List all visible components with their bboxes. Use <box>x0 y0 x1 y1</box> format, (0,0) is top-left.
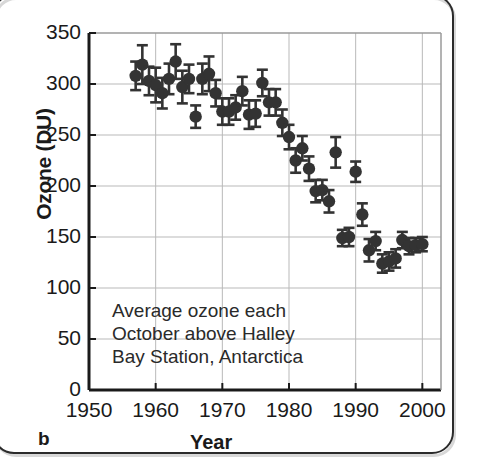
data-point-marker <box>343 231 355 243</box>
data-points-group <box>129 44 428 272</box>
annotation-line: October above Halley <box>112 322 303 345</box>
data-point-marker <box>349 166 361 178</box>
data-point-marker <box>203 68 215 80</box>
y-axis-title: Ozone (DU) <box>32 84 56 244</box>
chart-annotation: Average ozone eachOctober above HalleyBa… <box>112 299 303 369</box>
data-point-marker <box>303 162 315 174</box>
data-point <box>189 105 201 127</box>
data-point <box>256 70 268 97</box>
data-point-marker <box>323 195 335 207</box>
data-point <box>269 89 281 116</box>
data-point-marker <box>356 208 368 220</box>
data-point <box>329 137 341 168</box>
x-tick-label: 2000 <box>382 398 462 422</box>
data-point <box>249 100 261 127</box>
data-point <box>356 203 368 225</box>
data-point-marker <box>249 107 261 119</box>
data-point-marker <box>269 96 281 108</box>
annotation-line: Bay Station, Antarctica <box>112 345 303 368</box>
data-point <box>349 162 361 182</box>
y-tick-label: 350 <box>1 20 81 44</box>
data-point <box>203 56 215 91</box>
data-point-marker <box>136 58 148 70</box>
data-point-marker <box>129 70 141 82</box>
y-tick-label: 100 <box>1 275 81 299</box>
data-point-marker <box>236 85 248 97</box>
data-point-marker <box>229 101 241 113</box>
data-point-marker <box>369 235 381 247</box>
data-point-marker <box>169 55 181 67</box>
data-point-marker <box>329 146 341 158</box>
data-point-marker <box>296 142 308 154</box>
data-point-marker <box>189 110 201 122</box>
panel-letter: b <box>38 428 50 450</box>
annotation-line: Average ozone each <box>112 299 303 322</box>
figure-panel: 050100150200250300350 195019601970198019… <box>0 0 477 463</box>
data-point-marker <box>416 238 428 250</box>
y-tick-label: 50 <box>1 326 81 350</box>
x-axis-title: Year <box>190 431 232 454</box>
data-point-marker <box>256 77 268 89</box>
data-point-marker <box>389 252 401 264</box>
data-point-marker <box>183 73 195 85</box>
data-point-marker <box>283 131 295 143</box>
data-point-marker <box>276 117 288 129</box>
